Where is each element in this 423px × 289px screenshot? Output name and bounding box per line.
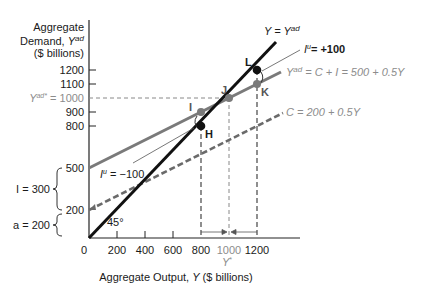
- y-tick-yad-star: Yad* = 1000: [29, 92, 84, 104]
- label-iu-plus: Iu= +100: [304, 43, 345, 55]
- c-line-arrowhead: [89, 204, 96, 210]
- label-yad-line: Yad = C + I = 500 + 0.5Y: [286, 65, 405, 78]
- keynesian-cross-chart: H I J K L Aggregate Demand, Yad ($ billi…: [0, 0, 423, 289]
- y-tick-500: 500: [66, 162, 84, 174]
- label-iu-minus: Iu = −100: [100, 168, 144, 180]
- x-ticks: [117, 231, 173, 238]
- x-tick-800: 800: [192, 244, 210, 256]
- x-axis-title: Aggregate Output, Y ($ billions): [99, 271, 252, 283]
- x-tick-600: 600: [164, 244, 182, 256]
- label-j: J: [221, 84, 227, 96]
- label-l: L: [245, 56, 252, 68]
- label-c-line: C = 200 + 0.5Y: [286, 106, 361, 118]
- y-axis-title-3: ($ billions): [34, 47, 84, 59]
- brace-i-label: I = 300: [16, 183, 50, 195]
- point-l: [253, 66, 262, 75]
- point-h: [197, 122, 206, 131]
- label-i: I: [189, 101, 192, 113]
- 45-degree-line: [89, 42, 276, 238]
- x-tick-1000: 1000: [217, 244, 241, 256]
- brace-a: [53, 214, 62, 236]
- label-45-degree: 45°: [107, 216, 124, 228]
- origin-label: 0: [81, 244, 87, 256]
- x-tick-400: 400: [136, 244, 154, 256]
- x-tick-200: 200: [108, 244, 126, 256]
- y-tick-200: 200: [66, 204, 84, 216]
- point-k: [253, 80, 261, 88]
- x-tick-1200: 1200: [245, 244, 269, 256]
- chart-svg: H I J K L Aggregate Demand, Yad ($ billi…: [0, 0, 423, 289]
- y-tick-900: 900: [66, 106, 84, 118]
- y-axis-title-1: Aggregate: [33, 21, 84, 33]
- label-k: K: [261, 86, 269, 98]
- point-i: [197, 108, 205, 116]
- aggregate-demand-line: [89, 72, 281, 168]
- brace-i: [53, 168, 62, 210]
- y-tick-1100: 1100: [60, 78, 84, 90]
- y-tick-800: 800: [66, 120, 84, 132]
- y-axis-title-2: Demand, Yad: [20, 34, 84, 47]
- label-h: H: [205, 128, 213, 140]
- y-tick-1200: 1200: [60, 64, 84, 76]
- brace-a-label: a = 200: [13, 219, 50, 231]
- label-45-line: Y = Yad: [264, 24, 300, 37]
- consumption-line: [89, 113, 283, 210]
- ystar-label: Y*: [222, 256, 232, 268]
